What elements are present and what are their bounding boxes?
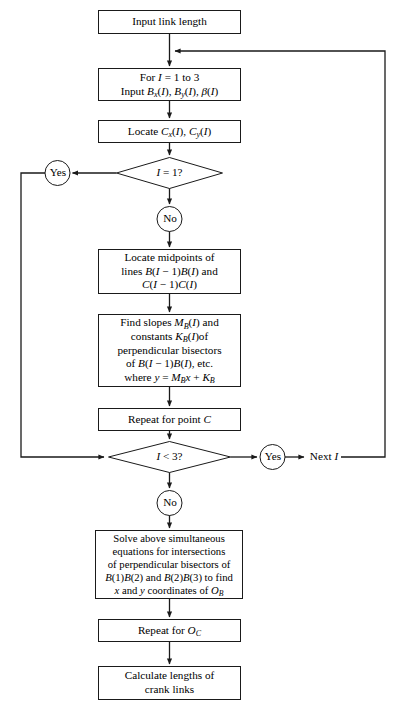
node-box-input-link-length bbox=[99, 11, 241, 34]
connector-circle-no-bottom bbox=[157, 491, 182, 516]
node-diamond-i-lt-3 bbox=[109, 442, 231, 473]
connector-circle-no-top bbox=[157, 207, 182, 232]
edge-left-feedback-loop bbox=[21, 173, 104, 457]
connector-circle-yes-top bbox=[45, 161, 70, 186]
node-box-solve-simultaneous bbox=[96, 531, 243, 599]
flowchart-graphics bbox=[0, 0, 396, 712]
flowchart-canvas: Input link length For I = 1 to 3 Input B… bbox=[0, 0, 396, 712]
node-box-repeat-point-c bbox=[99, 409, 241, 431]
node-box-locate-c bbox=[99, 121, 241, 143]
node-box-locate-midpoints bbox=[99, 250, 241, 294]
connector-circle-yes-bottom bbox=[260, 445, 285, 470]
node-box-repeat-oc bbox=[99, 620, 241, 642]
node-box-find-slopes bbox=[99, 315, 241, 387]
node-box-for-loop bbox=[99, 69, 241, 101]
node-box-calculate-lengths bbox=[99, 667, 241, 700]
node-diamond-i-eq-1 bbox=[117, 158, 223, 189]
